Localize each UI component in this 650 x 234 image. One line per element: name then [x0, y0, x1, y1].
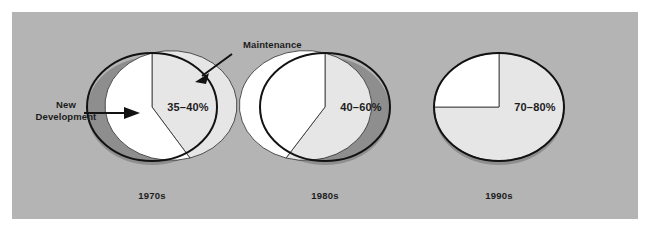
- figure-root: 35–40% 1970s 40–60% 1980s 70–80% 1990s: [0, 0, 650, 234]
- pie-value-label-1990s: 70–80%: [514, 101, 556, 113]
- maintenance-callout-label: Maintenance: [243, 39, 302, 50]
- pie-decade-label-1990s: 1990s: [485, 190, 512, 201]
- pie-decade-label-1980s: 1980s: [311, 190, 338, 201]
- pie-chart-1970s: 35–40% 1970s: [87, 51, 237, 201]
- new-development-callout-label-line1: New: [56, 99, 76, 110]
- pie-value-label-1980s: 40–60%: [340, 101, 382, 113]
- pie-decade-label-1970s: 1970s: [138, 190, 165, 201]
- pie-chart-1980s: 40–60% 1980s: [239, 51, 390, 201]
- pie-chart-1990s: 70–80% 1990s: [434, 53, 564, 201]
- pie-value-label-1970s: 35–40%: [167, 101, 209, 113]
- pie-chart-group: 35–40% 1970s 40–60% 1980s 70–80% 1990s: [0, 0, 650, 234]
